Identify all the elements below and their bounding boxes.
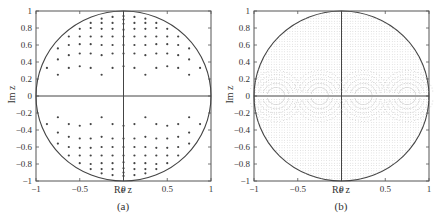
- y-axis-label-a: Im z: [6, 80, 17, 110]
- y-tick-label: −0.4: [16, 125, 33, 135]
- x-tick-label: −0.5: [72, 184, 89, 194]
- caption-a: (a): [103, 200, 143, 212]
- y-tick-label: −0.4: [234, 125, 251, 135]
- chart-panel-a: −1−0.500.5110.80.60.40.20−0.2−0.4−0.6−0.…: [0, 0, 218, 222]
- y-tick-label: 0: [246, 91, 251, 101]
- y-tick-label: 0.6: [239, 40, 251, 50]
- y-tick-label: 0.8: [239, 23, 251, 33]
- y-tick-label: 0.4: [21, 57, 33, 67]
- y-tick-label: −0.6: [234, 142, 251, 152]
- y-tick-label: 1: [28, 6, 33, 16]
- x-axis-label-a: Re z: [103, 184, 143, 195]
- y-tick-label: 1: [246, 6, 251, 16]
- y-tick-label: −0.8: [16, 159, 33, 169]
- x-tick-label: 0.5: [162, 184, 174, 194]
- y-tick-label: 0.6: [21, 40, 33, 50]
- x-tick-label: 0.5: [380, 184, 392, 194]
- chart-panel-b: −1−0.500.5110.80.60.40.20−0.2−0.4−0.6−0.…: [218, 0, 436, 222]
- y-axis-label-b: Im z: [224, 80, 235, 110]
- y-tick-label: −0.2: [16, 108, 32, 118]
- y-tick-label: −1: [22, 176, 32, 186]
- caption-b: (b): [321, 200, 361, 212]
- y-tick-label: 0.4: [239, 57, 251, 67]
- y-tick-label: −0.6: [16, 142, 33, 152]
- y-tick-label: 0.8: [21, 23, 33, 33]
- y-tick-label: 0: [28, 91, 33, 101]
- x-tick-label: −1: [31, 184, 41, 194]
- x-tick-label: 1: [427, 184, 432, 194]
- y-tick-label: −0.8: [234, 159, 251, 169]
- x-tick-label: −0.5: [290, 184, 307, 194]
- y-tick-label: 0.2: [21, 74, 32, 84]
- x-axis-label-b: Re z: [321, 184, 361, 195]
- x-tick-label: −1: [249, 184, 259, 194]
- y-tick-label: 0.2: [239, 74, 250, 84]
- x-tick-label: 1: [209, 184, 214, 194]
- y-tick-label: −0.2: [234, 108, 250, 118]
- y-tick-label: −1: [240, 176, 250, 186]
